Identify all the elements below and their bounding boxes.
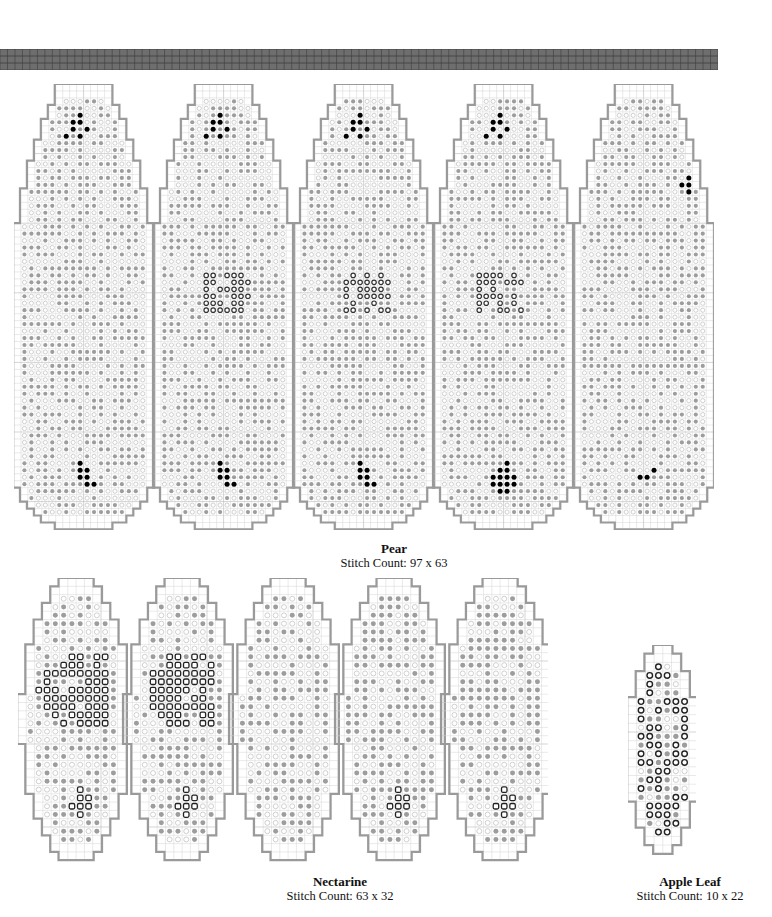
pear-chart: [14, 84, 714, 530]
pear-stitch-count: Stitch Count: 97 x 63: [304, 556, 484, 571]
nectarine-panel: [335, 578, 445, 860]
nectarine-panel: [441, 578, 548, 860]
nectarine-title: Nectarine: [250, 874, 430, 889]
nectarine-panel: [18, 578, 127, 860]
pear-caption: Pear Stitch Count: 97 x 63: [304, 541, 484, 571]
pear-panel: [293, 84, 434, 529]
pear-panel: [573, 84, 714, 529]
apple-leaf-chart: [628, 645, 696, 855]
nectarine-chart: [18, 578, 548, 862]
nectarine-stitch-count: Stitch Count: 63 x 32: [250, 889, 430, 904]
top-border-strip: [0, 49, 718, 70]
pear-panel: [433, 84, 574, 529]
pear-panel: [153, 84, 294, 529]
nectarine-caption: Nectarine Stitch Count: 63 x 32: [250, 874, 430, 904]
apple-leaf-title: Apple Leaf: [600, 874, 772, 889]
apple-leaf-stitch-count: Stitch Count: 10 x 22: [600, 889, 772, 904]
apple-leaf-caption: Apple Leaf Stitch Count: 10 x 22: [600, 874, 772, 904]
pear-panel: [14, 84, 154, 529]
strip-grid: [0, 49, 718, 70]
nectarine-panel: [123, 578, 233, 860]
pear-title: Pear: [304, 541, 484, 556]
nectarine-panel: [229, 578, 339, 860]
apple-leaf-panel: [628, 645, 696, 854]
